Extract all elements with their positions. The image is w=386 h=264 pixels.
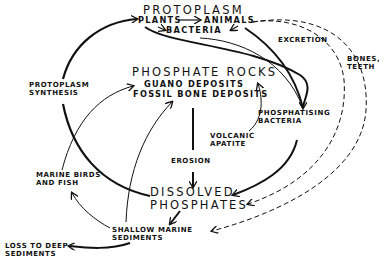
label-protoplasm-synthesis: PROTOPLASM SYNTHESIS [29,82,89,97]
node-bacteria: BACTERIA [166,26,222,35]
node-guano-deposits: GUANO DEPOSITS [144,80,244,89]
node-dissolved-phosphates: DISSOLVED PHOSPHATES [150,186,248,211]
label-excretion: EXCRETION [278,37,328,45]
cycle-arrows [0,0,386,264]
arrow-synthesis-upper [63,19,137,79]
label-erosion: EROSION [171,158,211,166]
node-shallow-marine-sediments: SHALLOW MARINE SEDIMENTS [112,227,193,242]
node-plants: PLANTS [138,16,182,25]
node-marine-birds-fish: MARINE BIRDS AND FISH [36,172,101,187]
node-volcanic-apatite: VOLCANIC APATITE [210,133,255,148]
node-phosphatising-bacteria: PHOSPHATISING BACTERIA [258,110,330,125]
node-animals: ANIMALS [204,16,255,25]
node-phosphate-rocks: PHOSPHATE ROCKS [132,66,277,79]
node-loss-to-deep-sediments: LOSS TO DEEP SEDIMENTS [5,243,68,258]
node-fossil-bone-deposits: FOSSIL BONE DEPOSITS [133,90,268,99]
label-bones-teeth: BONES, TEETH [347,56,380,71]
